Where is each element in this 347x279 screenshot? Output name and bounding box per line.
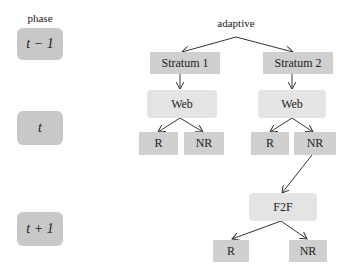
phase-t-plus-1: t + 1	[17, 212, 63, 246]
edge-adaptive-stratum1	[182, 37, 236, 52]
phase-header: phase	[18, 12, 62, 24]
stratum-1-node: Stratum 1	[150, 52, 220, 74]
edge-adaptive-stratum2	[236, 37, 293, 52]
outcome-r-stratum1: R	[139, 132, 178, 155]
stratum-2-node: Stratum 2	[263, 52, 333, 74]
phase-t: t	[17, 111, 63, 145]
edge-web2-r	[270, 118, 292, 132]
outcome-r-f2f: R	[213, 240, 249, 262]
outcome-r-stratum2: R	[251, 132, 289, 155]
outcome-nr-stratum1: NR	[184, 132, 224, 155]
edge-web2-nr	[292, 118, 313, 132]
edge-f2f-nr	[281, 221, 307, 239]
adaptive-root-label: adaptive	[206, 17, 266, 29]
web-node-1: Web	[147, 90, 217, 118]
edge-f2f-r	[232, 221, 281, 239]
edge-web1-nr	[180, 118, 203, 132]
outcome-nr-f2f: NR	[289, 240, 327, 262]
outcome-nr-stratum2: NR	[294, 132, 336, 155]
f2f-node: F2F	[249, 193, 317, 221]
edge-web1-r	[158, 118, 180, 132]
web-node-2: Web	[258, 90, 326, 118]
phase-t-minus-1: t − 1	[17, 28, 63, 60]
edge-nr-f2f	[282, 155, 312, 193]
